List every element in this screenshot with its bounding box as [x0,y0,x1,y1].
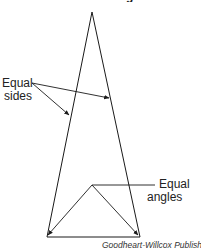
arrow-to-left-side [32,83,69,115]
left-side [47,12,92,237]
arrow-to-left-angle [48,185,92,235]
triangle [47,12,140,237]
right-side [92,12,140,237]
equal-sides-arrows [32,83,109,115]
equal-angles-label-line2: angles [147,191,190,204]
arrow-to-right-side [32,83,109,98]
equal-sides-label-line2: sides [2,90,33,103]
equal-angles-arrows [48,185,155,235]
isosceles-triangle-diagram [0,0,201,251]
equal-angles-label: Equal angles [158,178,190,204]
publisher-credit: Goodheart-Willcox Publisher [102,240,201,250]
arrow-to-right-angle [92,185,138,235]
equal-sides-label: Equal sides [2,77,33,103]
